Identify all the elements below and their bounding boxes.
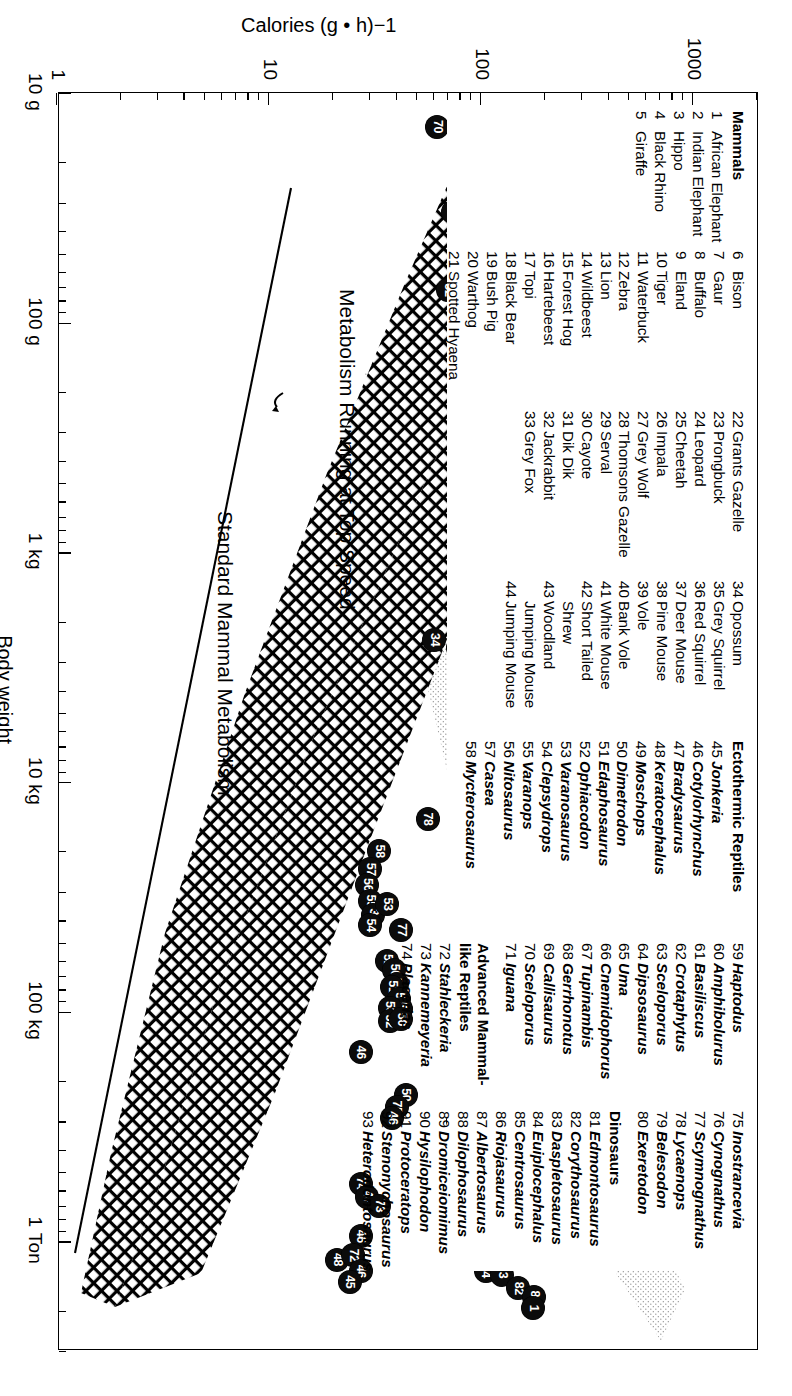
x-tick-label: 1 Ton [24,1217,46,1265]
y-tick-label: 100 [471,18,493,80]
axis-label-layer: 10 g100 g1 kg10 kg100 kg1 Ton1101001000B… [0,0,792,1396]
x-tick-label: 10 g [24,73,46,111]
figure-canvas: Metabolism Running at Top Speed Standard… [0,0,792,1396]
x-tick-label: 1 kg [24,533,46,570]
x-tick-label: 10 kg [24,757,46,805]
y-axis-title: Calories (g • h)−1 [241,14,396,37]
x-axis-title: Body weight [0,635,16,744]
y-tick-label: 1 [47,18,69,80]
figure-root: Metabolism Running at Top Speed Standard… [0,0,792,1396]
x-tick-label: 100 g [24,297,46,346]
x-tick-label: 100 kg [24,981,46,1040]
y-tick-label: 1000 [683,18,705,80]
